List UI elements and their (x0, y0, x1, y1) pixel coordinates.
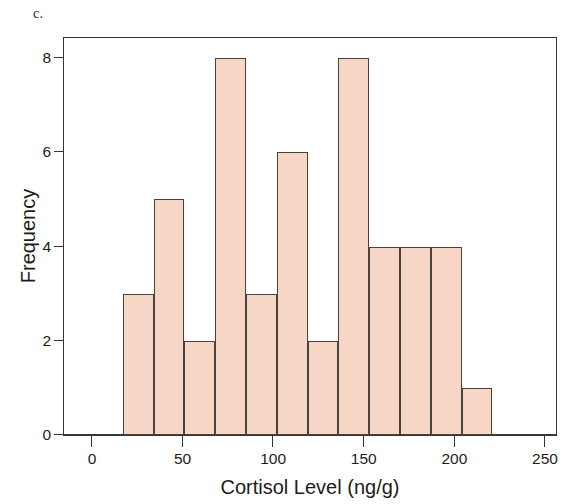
y-tick-label: 0 (42, 427, 51, 443)
x-tick-label: 50 (153, 451, 213, 467)
x-tick-mark (272, 436, 273, 447)
y-tick-mark (54, 340, 63, 341)
x-axis-title: Cortisol Level (ng/g) (63, 477, 557, 497)
y-tick-mark (54, 57, 63, 58)
histogram-figure: c. 02468 Frequency 050100150200250 Corti… (0, 0, 565, 504)
x-tick-mark (454, 436, 455, 447)
y-tick-mark (54, 151, 63, 152)
x-tick-label: 250 (515, 451, 565, 467)
y-tick-mark (54, 246, 63, 247)
panel-letter: c. (33, 7, 43, 21)
x-tick-label: 0 (62, 451, 122, 467)
y-tick-label: 4 (42, 239, 51, 255)
y-tick-label: 6 (42, 144, 51, 160)
x-tick-mark (91, 436, 92, 447)
y-axis-title: Frequency (18, 106, 38, 366)
x-tick-mark (544, 436, 545, 447)
x-tick-label: 150 (334, 451, 394, 467)
y-tick-mark (54, 434, 63, 435)
x-tick-label: 100 (243, 451, 303, 467)
x-tick-mark (363, 436, 364, 447)
y-tick-label: 8 (42, 50, 51, 66)
plot-frame (63, 37, 557, 435)
x-axis-line (63, 435, 557, 436)
x-tick-mark (182, 436, 183, 447)
y-tick-label: 2 (42, 333, 51, 349)
x-tick-label: 200 (424, 451, 484, 467)
